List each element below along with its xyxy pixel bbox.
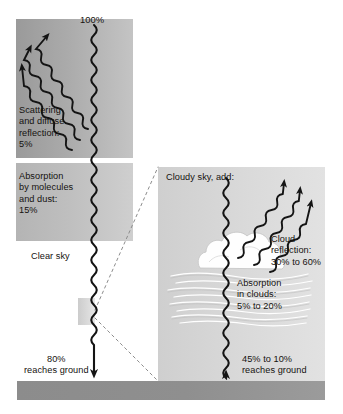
cloudy-sky-ground-label: 45% to 10% reaches ground [242, 354, 307, 377]
incoming-percent-label: 100% [80, 14, 104, 25]
molecular-absorption-label: Absorption by molecules and dust: 15% [19, 171, 73, 217]
cloud-absorption-label: Absorption in clouds: 5% to 20% [237, 278, 282, 312]
callout-line-lower [95, 318, 158, 381]
ground-bar [17, 381, 325, 400]
clear-sky-ground-label: 80% reaches ground [24, 354, 89, 377]
solar-radiation-diagram: 100% Scattering and diffuse reflection: … [0, 0, 343, 414]
clear-sky-panel-label: Clear sky [31, 251, 70, 262]
cloudy-sky-heading: Cloudy sky, add: [166, 172, 234, 183]
scattering-label: Scattering and diffuse reflection: 5% [19, 105, 64, 151]
cloud-reflection-label: Cloud reflection: 30% to 60% [271, 234, 321, 268]
